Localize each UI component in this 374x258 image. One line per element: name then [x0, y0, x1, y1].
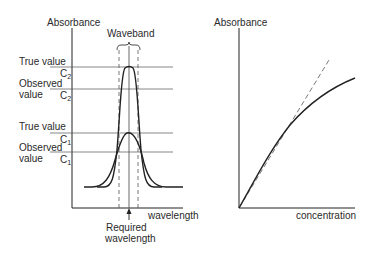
required-wavelength-label-line1: Required — [106, 222, 147, 233]
c1-observed-symbol: C1 — [60, 154, 71, 168]
c2-observed-symbol: C2 — [60, 90, 71, 104]
waveband-label: Waveband — [107, 28, 154, 39]
actual-absorbance-curve — [239, 78, 355, 208]
required-wavelength-label-line2: wavelength — [105, 233, 156, 244]
peak-c1-curve — [84, 133, 183, 187]
waveband-brace — [117, 42, 140, 50]
left-x-axis-label: wavelength — [148, 210, 199, 221]
c2-observed-label-line1: Observed — [19, 78, 62, 89]
c2-observed-label-line2: value — [19, 89, 43, 100]
peak-c2-curve — [97, 67, 162, 188]
c1-true-value-label: True value — [19, 121, 66, 132]
c2-true-value-label: True value — [19, 56, 66, 67]
right-panel — [239, 28, 355, 208]
left-y-axis-label: Absorbance — [47, 17, 100, 28]
right-x-axis-label: concentration — [296, 210, 356, 221]
left-panel — [50, 28, 183, 220]
c1-observed-label-line1: Observed — [19, 142, 62, 153]
c1-observed-label-line2: value — [19, 153, 43, 164]
right-y-axis-label: Absorbance — [214, 17, 267, 28]
arrow-head-icon — [127, 208, 132, 214]
